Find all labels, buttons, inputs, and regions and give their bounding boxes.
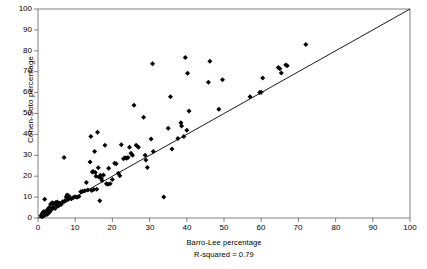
plot-area [0, 0, 427, 269]
data-point [279, 70, 284, 75]
data-point [216, 107, 221, 112]
data-points-layer [38, 42, 308, 219]
data-point [187, 108, 192, 113]
x-axis-ticks [38, 218, 410, 222]
data-point [207, 59, 212, 64]
data-point [166, 126, 171, 131]
data-point [110, 177, 115, 182]
data-point [42, 197, 47, 202]
data-point [149, 136, 154, 141]
data-point [151, 149, 156, 154]
data-point [95, 130, 100, 135]
data-point [169, 147, 174, 152]
data-point [248, 94, 253, 99]
reference-line-45deg [38, 9, 410, 218]
data-point [84, 180, 89, 185]
data-point [62, 155, 67, 160]
data-point [145, 165, 150, 170]
data-point [92, 149, 97, 154]
data-point [94, 187, 99, 192]
data-point [220, 77, 225, 82]
data-point [131, 103, 136, 108]
data-point [206, 80, 211, 85]
data-point [179, 124, 184, 129]
data-point [88, 159, 93, 164]
data-point [102, 143, 107, 148]
data-point [168, 94, 173, 99]
scatter-chart-figure: Cohen-Soto percentage Barro-Lee percenta… [0, 0, 427, 269]
data-point [161, 195, 166, 200]
data-point [150, 61, 155, 66]
data-point [183, 55, 188, 60]
data-point [260, 75, 265, 80]
data-point [96, 165, 101, 170]
y-axis-ticks [34, 9, 38, 218]
data-point [88, 134, 93, 139]
data-point [141, 115, 146, 120]
data-point [303, 42, 308, 47]
data-point [184, 128, 189, 133]
data-point [119, 142, 124, 147]
data-point [97, 198, 102, 203]
data-point [127, 145, 132, 150]
data-point [106, 166, 111, 171]
data-point [185, 71, 190, 76]
